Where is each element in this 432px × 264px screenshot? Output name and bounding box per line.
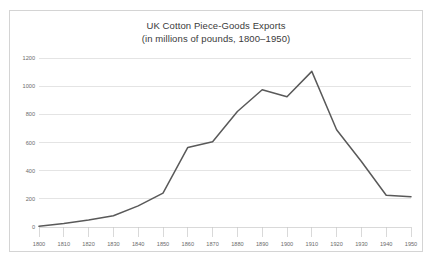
y-tick-label: 0 [32,224,35,230]
x-tick-label: 1940 [380,241,392,247]
line-chart-plot: 020040060080010001200 180018101820183018… [10,11,424,253]
y-tick-label: 1200 [23,55,35,61]
x-tick-label: 1880 [231,241,243,247]
x-tick-label: 1800 [33,241,45,247]
x-tick-label: 1950 [405,241,417,247]
x-tick-label: 1930 [355,241,367,247]
x-axis [39,227,411,237]
x-tick-label: 1860 [182,241,194,247]
x-tick-label: 1840 [132,241,144,247]
x-tick-label: 1890 [256,241,268,247]
gridlines-group [39,58,411,227]
x-tick-label: 1920 [330,241,342,247]
x-tick-label: 1900 [281,241,293,247]
y-tick-label: 800 [26,111,35,117]
x-tick-label: 1820 [82,241,94,247]
y-tick-label: 400 [26,168,35,174]
y-axis-tick-labels: 020040060080010001200 [23,55,35,230]
x-axis-tick-labels: 1800181018201830184018501860187018801890… [33,241,417,247]
data-series-line [39,71,411,226]
y-tick-label: 200 [26,196,35,202]
x-tick-label: 1850 [157,241,169,247]
x-tick-label: 1870 [206,241,218,247]
x-tick-label: 1830 [107,241,119,247]
y-tick-label: 1000 [23,83,35,89]
x-tick-label: 1910 [306,241,318,247]
y-tick-label: 600 [26,140,35,146]
chart-figure: UK Cotton Piece-Goods Exports (in millio… [9,10,423,252]
x-tick-label: 1810 [58,241,70,247]
